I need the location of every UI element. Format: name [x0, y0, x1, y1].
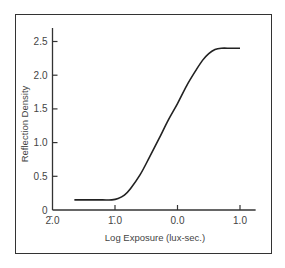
x-tick-label: 1̄.0	[108, 215, 122, 226]
x-tick-label: 1.0	[233, 215, 247, 226]
axes	[53, 28, 256, 210]
y-tick-label: 0	[42, 205, 48, 216]
y-axis-title: Reflection Density	[19, 85, 30, 162]
y-axis-ticks: 00.51.01.52.02.5	[34, 36, 58, 216]
characteristic-curve-chart: 00.51.01.52.02.5 2̄.01̄.00.01.0 Log Expo…	[0, 0, 285, 268]
x-tick-label: 2̄.0	[46, 215, 60, 226]
y-tick-label: 1.0	[34, 137, 48, 148]
y-tick-label: 0.5	[34, 171, 48, 182]
x-tick-label: 0.0	[171, 215, 185, 226]
x-axis-ticks: 2̄.01̄.00.01.0	[46, 205, 248, 226]
x-axis-title: Log Exposure (lux-sec.)	[105, 232, 205, 243]
y-tick-label: 2.5	[34, 36, 48, 47]
density-curve	[74, 48, 240, 200]
y-tick-label: 1.5	[34, 103, 48, 114]
y-tick-label: 2.0	[34, 70, 48, 81]
